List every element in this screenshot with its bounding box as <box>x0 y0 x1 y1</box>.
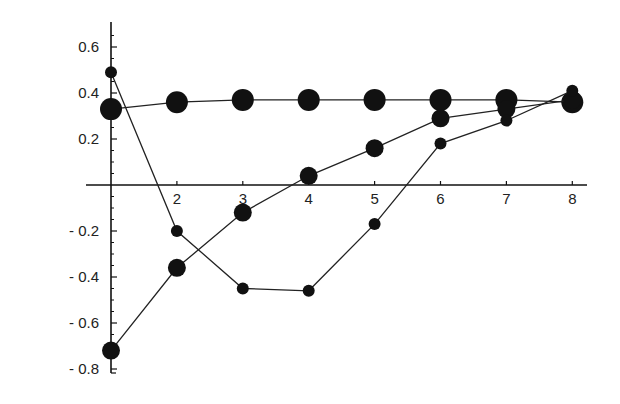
y-tick-label: 0.4 <box>78 84 99 101</box>
y-tick-label: - 0.4 <box>69 268 99 285</box>
x-tick-label: 8 <box>568 190 576 207</box>
y-tick-label: 0.6 <box>78 38 99 55</box>
data-point-marker <box>100 98 122 120</box>
y-tick-label: - 0.8 <box>69 360 99 377</box>
data-point-marker <box>232 89 254 111</box>
data-point-marker <box>300 167 318 185</box>
series-line-2 <box>111 100 572 351</box>
data-point-marker <box>171 225 183 237</box>
data-point-marker <box>432 109 450 127</box>
data-point-marker <box>168 259 186 277</box>
y-tick-label: - 0.2 <box>69 222 99 239</box>
x-tick-label: 6 <box>436 190 444 207</box>
tick-labels: 23456780.60.40.2- 0.2- 0.4- 0.6- 0.8 <box>69 38 576 377</box>
data-point-marker <box>105 66 117 78</box>
data-point-marker <box>430 89 452 111</box>
line-chart: 23456780.60.40.2- 0.2- 0.4- 0.6- 0.8 <box>0 0 620 404</box>
data-point-marker <box>303 285 315 297</box>
data-point-marker <box>566 85 578 97</box>
data-point-marker <box>366 139 384 157</box>
data-point-marker <box>234 204 252 222</box>
data-point-marker <box>369 218 381 230</box>
data-point-marker <box>102 342 120 360</box>
chart-axes <box>86 22 587 373</box>
x-tick-label: 4 <box>305 190 313 207</box>
data-point-marker <box>237 283 249 295</box>
data-point-marker <box>298 89 320 111</box>
x-tick-label: 7 <box>502 190 510 207</box>
data-point-marker <box>500 115 512 127</box>
x-tick-label: 2 <box>173 190 181 207</box>
data-point-marker <box>364 89 386 111</box>
data-point-marker <box>166 91 188 113</box>
x-tick-label: 5 <box>370 190 378 207</box>
data-point-marker <box>435 138 447 150</box>
y-tick-label: 0.2 <box>78 130 99 147</box>
y-tick-label: - 0.6 <box>69 314 99 331</box>
data-series <box>100 66 583 359</box>
